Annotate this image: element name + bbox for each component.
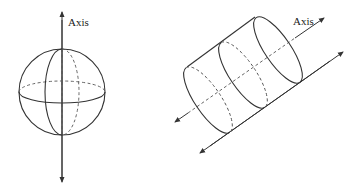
cylinder-middle-ellipse-back bbox=[221, 35, 275, 107]
cylinder-figure: Axis bbox=[175, 10, 343, 153]
diagram-canvas: Axis Axis bbox=[0, 0, 356, 191]
cylinder-axis-back-arrow bbox=[175, 113, 188, 122]
sphere-meridian-back bbox=[62, 49, 79, 135]
cylinder-axis-inner bbox=[188, 38, 295, 113]
cylinder-parallel-forward-arrow bbox=[210, 52, 343, 146]
cylinder-left-ellipse-back bbox=[186, 60, 240, 132]
cylinder-middle-ellipse-front bbox=[210, 43, 264, 115]
cylinder-left-ellipse-front bbox=[175, 68, 229, 140]
sphere-axis-label: Axis bbox=[68, 16, 89, 28]
sphere-figure: Axis bbox=[19, 12, 105, 182]
cylinder-axis-label: Axis bbox=[293, 15, 314, 27]
sphere-meridian-front bbox=[45, 49, 62, 135]
